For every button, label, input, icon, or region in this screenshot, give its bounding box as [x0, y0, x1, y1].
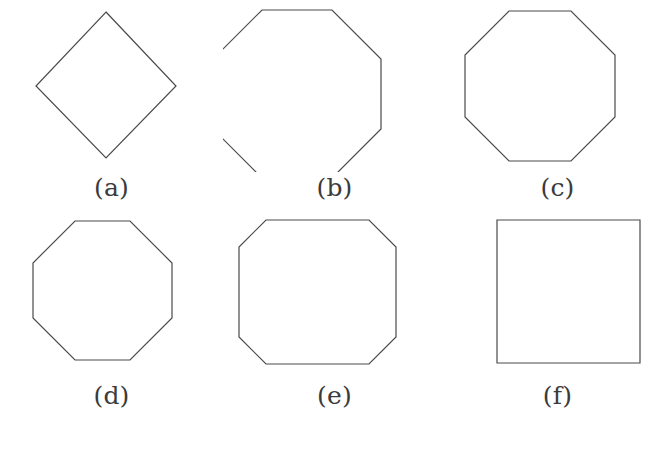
panel-caption-f: (f): [446, 380, 669, 412]
figure-panel-e: (e): [223, 208, 446, 418]
figure-panel-grid: (a) (b) (c) (d) (e): [0, 0, 669, 458]
polygon-d: [33, 221, 172, 360]
polygon-b: [223, 10, 381, 172]
shape-regular-octagon-wide: [446, 0, 669, 172]
shape-octagon-short-edges: [0, 208, 223, 380]
panel-caption-d: (d): [0, 380, 223, 412]
polygon-e: [239, 220, 396, 364]
shape-square: [446, 208, 669, 380]
shape-chamfered-square: [223, 208, 446, 380]
figure-panel-a: (a): [0, 0, 223, 210]
polygon-c: [465, 11, 615, 161]
panel-caption-a: (a): [0, 172, 223, 204]
figure-panel-b: (b): [223, 0, 446, 210]
figure-panel-f: (f): [446, 208, 669, 418]
polygon-a: [36, 12, 176, 158]
shape-diamond: [0, 0, 223, 172]
shape-regular-octagon: [223, 0, 446, 172]
figure-panel-d: (d): [0, 208, 223, 418]
panel-caption-e: (e): [223, 380, 446, 412]
panel-caption-b: (b): [223, 172, 446, 204]
polygon-f: [497, 220, 640, 363]
figure-panel-c: (c): [446, 0, 669, 210]
panel-caption-c: (c): [446, 172, 669, 204]
